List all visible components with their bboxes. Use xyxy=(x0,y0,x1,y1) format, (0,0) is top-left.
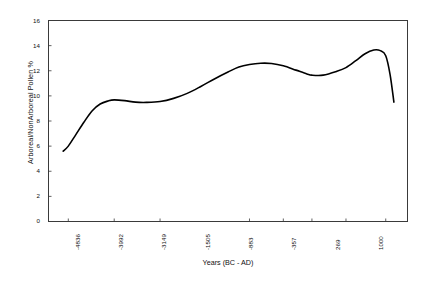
y-tick-label: 12 xyxy=(14,67,40,74)
x-tick-label: -1505 xyxy=(204,234,211,250)
x-tick-label: 1000 xyxy=(377,236,384,250)
y-tick-label: 14 xyxy=(14,42,40,49)
y-tick-label: 6 xyxy=(14,142,40,149)
x-tick-label: -4836 xyxy=(74,234,81,250)
plot-frame xyxy=(49,21,408,222)
x-tick-label: -883 xyxy=(247,238,254,250)
y-tick-label: 0 xyxy=(14,217,40,224)
data-series-line xyxy=(63,50,394,151)
x-tick-label: -357 xyxy=(290,238,297,250)
y-tick-label: 16 xyxy=(14,17,40,24)
y-tick-label: 10 xyxy=(14,92,40,99)
x-tick-label: -3149 xyxy=(160,234,167,250)
tick-marks xyxy=(49,21,386,222)
x-tick-label: 269 xyxy=(334,240,341,250)
y-tick-label: 8 xyxy=(14,117,40,124)
x-axis-title: Years (BC - AD) xyxy=(48,258,408,267)
y-tick-label: 2 xyxy=(14,192,40,199)
pollen-line-chart: Arboreal/NonArboreal Pollen % Years (BC … xyxy=(0,0,433,281)
y-axis-title: Arboreal/NonArboreal Pollen % xyxy=(26,23,35,203)
plot-area xyxy=(0,0,433,281)
x-tick-label: -3992 xyxy=(117,234,124,250)
y-tick-label: 4 xyxy=(14,167,40,174)
